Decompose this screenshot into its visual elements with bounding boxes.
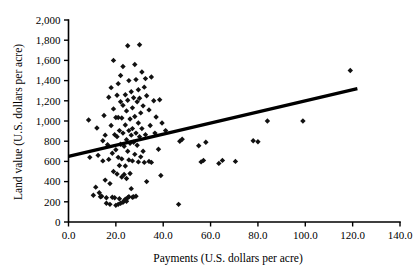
regression-line (69, 89, 358, 157)
data-point-marker (104, 195, 109, 200)
data-point-marker (129, 186, 134, 191)
chart-canvas: 02004006008001,0001,2001,4001,6001,8002,… (0, 0, 417, 279)
y-tick-label: 600 (44, 155, 61, 167)
data-point-marker (116, 81, 121, 86)
trend-line (69, 89, 358, 157)
x-axis-tick-labels: 0.020.040.060.080.0100.0120.0140.0 (62, 229, 413, 241)
data-point-marker (140, 149, 145, 154)
data-point-marker (138, 110, 143, 115)
data-point-marker (108, 85, 113, 90)
data-point-marker (146, 107, 151, 112)
scatter-plot-figure: 02004006008001,0001,2001,4001,6001,8002,… (0, 0, 417, 279)
data-point-marker (132, 152, 137, 157)
data-point-marker (131, 95, 136, 100)
data-point-marker (149, 74, 154, 79)
x-tick-label: 140.0 (388, 229, 413, 241)
axes (69, 20, 401, 222)
data-point-marker (153, 114, 158, 119)
x-tick-label: 0.0 (62, 229, 76, 241)
data-point-marker (129, 132, 134, 137)
data-point-marker (106, 95, 111, 100)
data-points (86, 42, 353, 208)
data-point-marker (103, 132, 108, 137)
data-point-marker (120, 64, 125, 69)
y-tick-label: 1,200 (36, 95, 61, 107)
x-tick-label: 20.0 (106, 229, 126, 241)
data-point-marker (137, 42, 142, 47)
data-point-marker (123, 122, 128, 127)
data-point-marker (127, 116, 132, 121)
y-axis-tick-labels: 02004006008001,0001,2001,4001,6001,8002,… (36, 14, 61, 228)
data-point-marker (250, 138, 255, 143)
data-point-marker (123, 92, 128, 97)
data-point-marker (255, 139, 260, 144)
data-point-marker (125, 98, 130, 103)
data-point-marker (138, 154, 143, 159)
data-point-marker (93, 184, 98, 189)
data-point-marker (300, 118, 305, 123)
data-point-marker (158, 173, 163, 178)
x-tick-label: 120.0 (340, 229, 365, 241)
y-tick-label: 0 (55, 216, 61, 228)
y-tick-label: 1,400 (36, 74, 61, 86)
data-point-marker (123, 163, 128, 168)
data-point-marker (86, 117, 91, 122)
x-tick-label: 60.0 (201, 229, 221, 241)
data-point-marker (136, 87, 141, 92)
data-point-marker (133, 130, 138, 135)
data-point-marker (111, 58, 116, 63)
data-point-marker (140, 103, 145, 108)
data-point-marker (101, 113, 106, 118)
data-point-marker (139, 126, 144, 131)
data-point-marker (107, 181, 112, 186)
data-point-marker (233, 159, 238, 164)
data-point-marker (132, 114, 137, 119)
data-point-marker (110, 151, 115, 156)
data-point-marker (87, 155, 92, 160)
data-point-marker (129, 89, 134, 94)
x-tick-label: 100.0 (293, 229, 318, 241)
x-tick-label: 80.0 (248, 229, 268, 241)
data-point-marker (126, 78, 131, 83)
data-point-marker (136, 159, 141, 164)
data-point-marker (196, 143, 201, 148)
y-tick-label: 1,800 (36, 34, 61, 46)
data-point-marker (159, 120, 164, 125)
data-point-marker (203, 140, 208, 145)
data-point-marker (134, 143, 139, 148)
data-point-marker (103, 177, 108, 182)
data-point-marker (127, 171, 132, 176)
data-point-marker (348, 68, 353, 73)
data-point-marker (265, 118, 270, 123)
y-tick-label: 800 (44, 135, 61, 147)
data-point-marker (142, 160, 147, 165)
data-point-marker (118, 73, 123, 78)
data-point-marker (157, 97, 162, 102)
data-point-marker (125, 149, 130, 154)
data-point-marker (156, 147, 161, 152)
y-axis-title: Land value (U.S. dollars per acre) (12, 44, 25, 200)
y-tick-label: 200 (44, 196, 61, 208)
data-point-marker (95, 153, 100, 158)
data-point-marker (151, 98, 156, 103)
data-point-marker (142, 84, 147, 89)
y-tick-label: 400 (44, 175, 61, 187)
data-point-marker (133, 77, 138, 82)
data-point-marker (132, 62, 137, 67)
data-point-marker (113, 147, 118, 152)
data-point-marker (108, 123, 113, 128)
data-point-marker (100, 158, 105, 163)
data-point-marker (143, 76, 148, 81)
data-point-marker (100, 138, 105, 143)
data-point-marker (130, 105, 135, 110)
x-axis-title: Payments (U.S. dollars per acre) (153, 252, 303, 265)
data-point-marker (117, 196, 122, 201)
data-point-marker (144, 179, 149, 184)
data-point-marker (125, 43, 130, 48)
data-point-marker (216, 161, 221, 166)
data-point-marker (94, 125, 99, 130)
plot-area: 02004006008001,0001,2001,4001,6001,8002,… (36, 14, 413, 241)
axis-spine (69, 20, 401, 222)
data-point-marker (220, 158, 225, 163)
data-point-marker (147, 123, 152, 128)
